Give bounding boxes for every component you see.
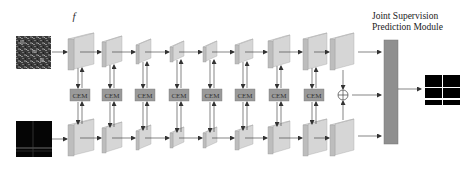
bottom-feature-block-9	[330, 119, 354, 156]
cem-label: CEM	[137, 92, 153, 100]
top-feature-block-6	[235, 39, 253, 64]
fusion-sum-node	[338, 90, 348, 100]
top-feature-block-7	[268, 35, 290, 68]
bottom-feature-block-3	[136, 125, 151, 150]
bottom-feature-block-1	[68, 119, 94, 156]
top-feature-block-8	[303, 33, 327, 70]
network-architecture-diagram: CEMCEMCEMCEMCEMCEMCEMCEM f Joint Supervi…	[0, 0, 474, 182]
bottom-feature-block-2	[102, 122, 122, 153]
cem-module-4: CEM	[169, 60, 189, 132]
top-feature-block-3	[136, 39, 151, 64]
cem-label: CEM	[171, 92, 187, 100]
top-feature-block-9	[330, 33, 354, 70]
cem-module-1: CEM	[70, 68, 90, 124]
top-feature-block-5	[203, 41, 217, 62]
cem-label: CEM	[271, 92, 287, 100]
bottom-feature-block-7	[268, 121, 290, 154]
output-saliency-map	[424, 74, 460, 106]
module-title-line1: Joint Supervision	[372, 11, 438, 21]
cem-module-6: CEM	[235, 62, 255, 130]
top-feature-block-4	[170, 41, 184, 62]
thermal-input-image	[16, 121, 52, 157]
cem-module-3: CEM	[135, 62, 155, 130]
cem-module-7: CEM	[269, 66, 289, 126]
cem-label: CEM	[237, 92, 253, 100]
top-feature-block-1	[68, 33, 94, 70]
cem-label: CEM	[72, 92, 88, 100]
bottom-feature-block-6	[235, 125, 253, 150]
cem-module-5: CEM	[202, 60, 222, 132]
cem-module-8: CEM	[304, 68, 324, 124]
cem-label: CEM	[104, 92, 120, 100]
cem-label: CEM	[306, 92, 322, 100]
cem-module-2: CEM	[102, 65, 122, 127]
bottom-feature-block-8	[303, 119, 327, 156]
label-top-feature-1: f	[72, 10, 77, 22]
rgb-input-image	[16, 36, 51, 69]
top-feature-block-2	[102, 36, 122, 67]
module-title-line2: Prediction Module	[372, 22, 443, 32]
cem-label: CEM	[204, 92, 220, 100]
joint-supervision-prediction-module	[384, 40, 398, 144]
